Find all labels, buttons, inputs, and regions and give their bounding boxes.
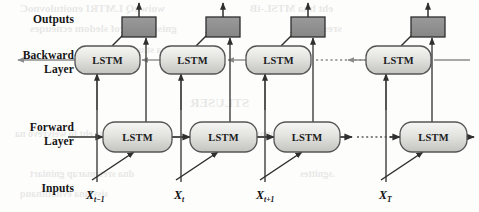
- timestep-column-T: LSTM LSTM: [366, 3, 467, 182]
- figure-canvas: woiwuQ LMTRI enoitulovnoC eht bna MTSL-i…: [0, 0, 479, 212]
- output-box-t: [206, 17, 240, 37]
- lstm-cell-backward-t-plus-1-label: LSTM: [263, 55, 294, 66]
- input-label-t: Xt: [174, 188, 184, 204]
- timestep-column-t-plus-1: LSTM LSTM: [246, 3, 340, 182]
- timestep-column-t: LSTM LSTM: [160, 3, 257, 182]
- lstm-cell-backward-T-label: LSTM: [383, 55, 414, 66]
- input-label-T-sub: T: [387, 195, 392, 204]
- lstm-cell-forward-t-plus-1-label: LSTM: [292, 132, 323, 143]
- input-label-T-base: X: [379, 188, 387, 202]
- input-label-t-minus-1-base: X: [86, 188, 94, 202]
- lstm-cell-backward-t-label: LSTM: [177, 55, 208, 66]
- output-box-t-plus-1: [291, 17, 325, 37]
- input-label-t-plus-1-base: X: [256, 188, 264, 202]
- input-label-t-plus-1-sub: t+1: [264, 195, 274, 204]
- input-label-t-minus-1: Xt−1: [86, 188, 105, 204]
- lstm-cell-forward-t-label: LSTM: [208, 132, 239, 143]
- timestep-column-t-minus-1: LSTM LSTM: [75, 3, 172, 182]
- input-label-t-minus-1-sub: t−1: [94, 195, 105, 204]
- bilstm-diagram-svg: LSTM LSTM LSTM LSTM: [0, 0, 479, 212]
- lstm-cell-forward-t-minus-1-label: LSTM: [122, 132, 153, 143]
- input-label-T: XT: [379, 188, 392, 204]
- lstm-cell-forward-T-label: LSTM: [418, 132, 449, 143]
- lstm-cell-backward-t-minus-1-label: LSTM: [92, 55, 123, 66]
- output-box-t-minus-1: [122, 17, 156, 37]
- output-box-T: [411, 17, 445, 37]
- input-label-t-sub: t: [182, 195, 184, 204]
- input-label-t-plus-1: Xt+1: [256, 188, 274, 204]
- input-label-t-base: X: [174, 188, 182, 202]
